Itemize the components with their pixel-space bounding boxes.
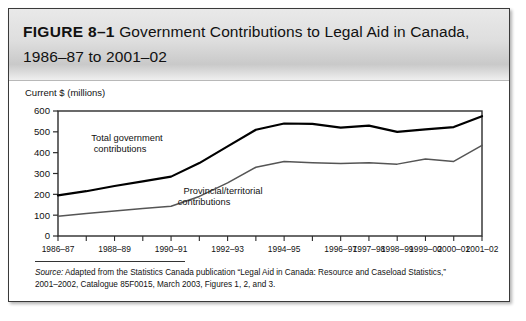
annotation-total: contributions <box>94 144 147 154</box>
source-line-1: Adapted from the Statistics Canada publi… <box>63 268 446 277</box>
figure-number: FIGURE 8–1 <box>23 23 115 40</box>
y-axis-ticks: 0100200300400500600 <box>34 105 58 241</box>
x-axis-ticks <box>58 236 482 241</box>
annotation-provincial: contributions <box>178 197 231 207</box>
y-tick-label: 100 <box>34 210 50 221</box>
x-tick-label: 1986–87 <box>42 244 75 254</box>
figure-card: FIGURE 8–1 Government Contributions to L… <box>8 8 510 302</box>
source-note: Source: Adapted from the Statistics Cana… <box>35 267 495 290</box>
source-label: Source: <box>35 268 63 277</box>
annotation-provincial: Provincial/territorial <box>183 186 262 196</box>
y-tick-label: 200 <box>34 189 50 200</box>
x-tick-label: 1990–91 <box>155 244 188 254</box>
x-tick-label: 1992–93 <box>211 244 244 254</box>
chart-container: Current $ (millions) 0100200300400500600… <box>9 81 509 261</box>
page-title: FIGURE 8–1 Government Contributions to L… <box>23 19 501 69</box>
y-tick-label: 300 <box>34 168 50 179</box>
y-tick-label: 0 <box>45 230 50 241</box>
annotation-total: Total government <box>91 133 163 143</box>
y-tick-label: 600 <box>34 105 50 116</box>
figure-header-band: FIGURE 8–1 Government Contributions to L… <box>9 9 509 81</box>
x-tick-label: 1994–95 <box>268 244 301 254</box>
y-tick-label: 500 <box>34 126 50 137</box>
source-divider <box>35 261 185 262</box>
y-tick-label: 400 <box>34 147 50 158</box>
line-chart: 0100200300400500600 1986–871988–891990–9… <box>9 81 510 261</box>
x-tick-label: 2001–02 <box>466 244 499 254</box>
x-axis-tick-labels: 1986–871988–891990–911992–931994–951996–… <box>42 244 499 254</box>
source-line-2: 2001–2002, Catalogue 85F0015, March 2003… <box>35 280 275 289</box>
x-tick-label: 1988–89 <box>98 244 131 254</box>
